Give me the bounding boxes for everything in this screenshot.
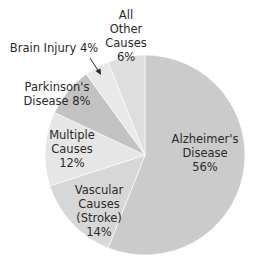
label-brain-injury: Brain Injury 4% [8,41,100,55]
label-other: All Other Causes 6% [104,8,148,64]
label-vascular: Vascular Causes (Stroke) 14% [66,183,132,239]
label-parkinsons: Parkinson's Disease 8% [22,80,92,108]
label-multiple: Multiple Causes 12% [42,128,102,170]
label-alzheimers: Alzheimer's Disease 56% [170,132,240,174]
